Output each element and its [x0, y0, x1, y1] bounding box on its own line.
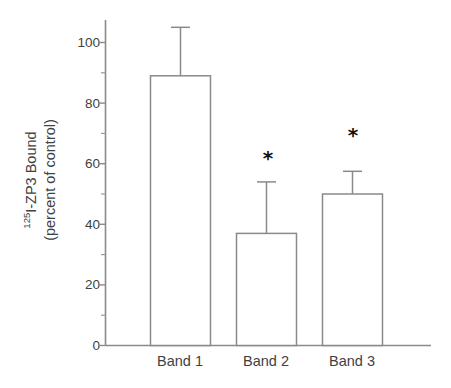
significance-star-band-2: *	[263, 148, 273, 168]
x-tick-label-band-3: Band 3	[329, 353, 375, 369]
x-tick-label-band-1: Band 1	[157, 353, 203, 369]
bar-band-3	[323, 194, 383, 346]
bar-band-2	[237, 233, 297, 345]
x-tick-label-band-2: Band 2	[243, 353, 289, 369]
significance-star-band-3: *	[348, 125, 358, 145]
plot-area	[0, 0, 451, 388]
bar-chart-figure: 125I-ZP3 Bound (percent of control) 0 20…	[0, 0, 451, 388]
error-bar-band-2	[257, 182, 276, 234]
error-bar-band-1	[171, 27, 190, 76]
bar-band-1	[151, 76, 211, 346]
error-bar-band-3	[343, 171, 362, 194]
